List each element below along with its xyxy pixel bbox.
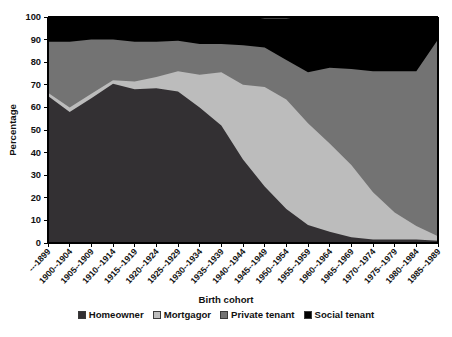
x-axis-ticks: ---18991900--19041905--19091910--1914191…: [26, 243, 442, 286]
x-axis-title-group: Birth cohort: [199, 294, 255, 305]
legend-label: Social tenant: [315, 310, 375, 320]
chart-legend: HomeownerMortgagorPrivate tenantSocial t…: [0, 310, 452, 320]
legend-swatch-icon: [220, 311, 228, 319]
legend-label: Private tenant: [231, 310, 294, 320]
x-axis-title: Birth cohort: [199, 294, 255, 305]
y-tick-label: 10: [31, 215, 41, 225]
legend-entry: Homeowner: [78, 310, 144, 320]
y-tick-label: 50: [31, 125, 41, 135]
y-tick-label: 70: [31, 80, 41, 90]
y-tick-label: 60: [31, 102, 41, 112]
chart-canvas: 0102030405060708090100 ---18991900--1904…: [0, 0, 452, 337]
y-tick-label: 90: [31, 35, 41, 45]
legend-entry: Mortgagor: [153, 310, 211, 320]
legend-entry: Social tenant: [304, 310, 375, 320]
y-tick-label: 30: [31, 170, 41, 180]
y-tick-label: 0: [36, 238, 41, 248]
stacked-area-chart-figure: 0102030405060708090100 ---18991900--1904…: [0, 0, 452, 337]
legend-swatch-icon: [153, 311, 161, 319]
y-axis-title: Percentage: [7, 104, 18, 156]
plot-areas: [48, 17, 438, 243]
y-tick-label: 40: [31, 148, 41, 158]
legend-label: Mortgagor: [164, 310, 211, 320]
legend-label: Homeowner: [89, 310, 144, 320]
legend-swatch-icon: [304, 311, 312, 319]
y-axis-title-group: Percentage: [7, 104, 18, 156]
legend-entry: Private tenant: [220, 310, 294, 320]
y-tick-label: 20: [31, 193, 41, 203]
y-tick-label: 80: [31, 57, 41, 67]
y-axis-ticks: 0102030405060708090100: [25, 12, 48, 248]
y-tick-label: 100: [25, 12, 41, 22]
legend-swatch-icon: [78, 311, 86, 319]
